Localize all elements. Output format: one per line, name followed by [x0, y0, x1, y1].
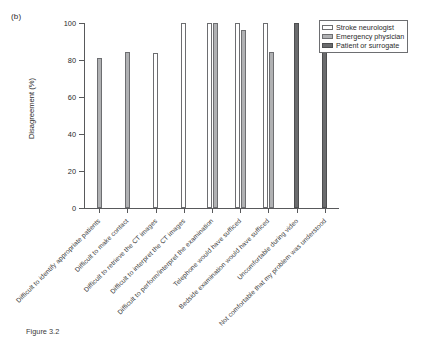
x-axis-tick: [268, 209, 269, 213]
chart-legend: Stroke neurologist Emergency physician P…: [319, 20, 408, 53]
bar: [97, 58, 102, 208]
y-axis-tick: [79, 23, 84, 24]
x-axis-tick: [212, 209, 213, 213]
legend-swatch-icon: [322, 34, 333, 39]
y-axis-line: [84, 23, 85, 209]
legend-swatch-icon: [322, 43, 333, 48]
x-axis-tick: [156, 209, 157, 213]
y-axis-tick: [79, 134, 84, 135]
bar: [125, 52, 130, 208]
y-axis-tick: [79, 208, 84, 209]
bar: [263, 23, 268, 208]
y-axis-title: Disagreement (%): [27, 34, 36, 184]
x-axis-tick: [127, 209, 128, 213]
y-axis-tick: [79, 97, 84, 98]
bar: [235, 23, 240, 208]
x-axis-tick: [99, 209, 100, 213]
y-axis-tick-label: 100: [64, 19, 76, 28]
bar: [241, 30, 246, 208]
bar: [153, 53, 158, 208]
bar: [294, 23, 299, 208]
legend-item-label: Stroke neurologist: [336, 23, 394, 32]
bar: [207, 23, 212, 208]
x-axis-tick: [240, 209, 241, 213]
y-axis-tick-label: 0: [72, 204, 76, 213]
y-axis-tick: [79, 171, 84, 172]
x-axis-tick: [297, 209, 298, 213]
x-axis-tick: [325, 209, 326, 213]
bar: [213, 23, 218, 208]
bar: [181, 23, 186, 208]
y-axis-tick-label: 80: [68, 56, 76, 65]
figure-caption: Figure 3.2: [26, 327, 418, 337]
legend-item-emergency-physician: Emergency physician: [322, 32, 404, 41]
bar: [322, 42, 327, 209]
legend-item-stroke-neurologist: Stroke neurologist: [322, 23, 404, 32]
y-axis-tick-label: 40: [68, 130, 76, 139]
bar: [269, 52, 274, 208]
legend-item-label: Patient or surrogate: [336, 41, 399, 50]
x-axis-tick: [184, 209, 185, 213]
y-axis-tick: [79, 60, 84, 61]
legend-swatch-icon: [322, 25, 333, 30]
legend-item-label: Emergency physician: [336, 32, 404, 41]
legend-item-patient-or-surrogate: Patient or surrogate: [322, 41, 404, 50]
y-axis-tick-label: 20: [68, 167, 76, 176]
y-axis-tick-label: 60: [68, 93, 76, 102]
